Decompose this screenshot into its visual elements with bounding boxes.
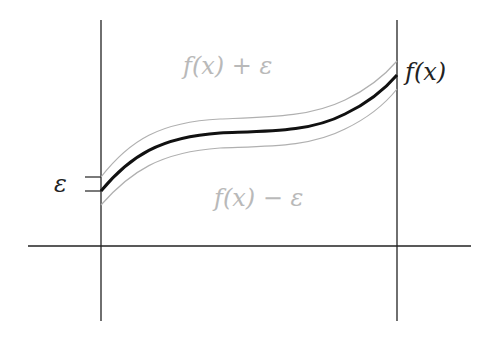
upper-band-label: f(x) + ε (183, 52, 272, 80)
epsilon-label: ε (54, 170, 67, 198)
lower-band-label: f(x) − ε (214, 184, 303, 212)
function-curve (101, 75, 397, 191)
function-label: f(x) (405, 58, 446, 86)
